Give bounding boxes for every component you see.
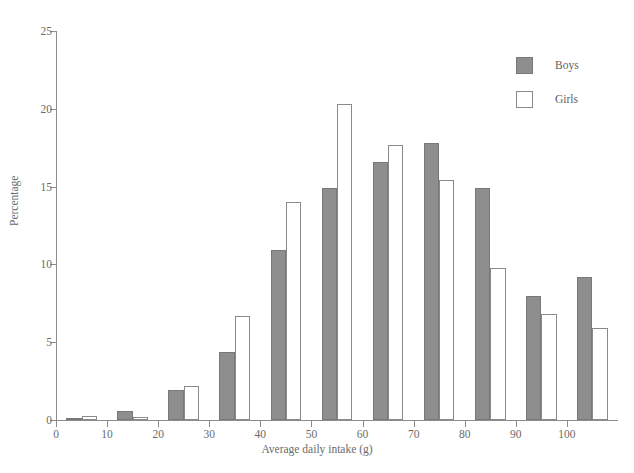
x-tick-mark [414, 421, 415, 427]
bar-boys-55 [322, 188, 337, 420]
x-tick-mark [363, 421, 364, 427]
bar-girls-35 [235, 316, 250, 420]
y-tick-label: 25 [41, 25, 53, 37]
x-tick-label: 10 [101, 428, 113, 440]
x-tick-label: 60 [357, 428, 369, 440]
bar-boys-15 [117, 411, 132, 420]
y-tick-label: 20 [41, 103, 53, 115]
bar-girls-75 [439, 180, 454, 420]
legend-item-boys: Boys [516, 48, 626, 82]
bar-boys-35 [219, 352, 234, 420]
y-tick-label: 10 [41, 258, 53, 270]
y-tick-label: 15 [41, 181, 53, 193]
x-tick-mark [516, 421, 517, 427]
legend-swatch-girls [516, 91, 533, 108]
bar-boys-95 [526, 296, 541, 420]
bar-boys-75 [424, 143, 439, 420]
x-tick-label: 40 [255, 428, 267, 440]
x-tick-label: 0 [53, 428, 59, 440]
x-tick-mark [209, 421, 210, 427]
chart-legend: BoysGirls [516, 48, 626, 116]
legend-label-boys: Boys [555, 59, 579, 71]
bar-girls-95 [541, 314, 556, 420]
bar-girls-5 [82, 416, 97, 420]
x-axis-line [56, 420, 618, 421]
chart-figure: Percentage Average daily intake (g) 0510… [0, 0, 634, 473]
y-tick-label: 5 [46, 336, 52, 348]
x-tick-mark [260, 421, 261, 427]
legend-item-girls: Girls [516, 82, 626, 116]
y-axis-title: Percentage [8, 176, 20, 226]
bar-boys-65 [373, 162, 388, 420]
legend-label-girls: Girls [555, 93, 578, 105]
bar-boys-45 [271, 250, 286, 420]
bar-boys-5 [66, 418, 81, 420]
x-tick-label: 20 [152, 428, 164, 440]
x-tick-mark [567, 421, 568, 427]
bar-boys-105 [577, 277, 592, 420]
bar-boys-25 [168, 390, 183, 420]
x-tick-label: 70 [408, 428, 420, 440]
x-tick-label: 50 [306, 428, 318, 440]
cropped-title-fragment [0, 0, 634, 5]
bar-girls-65 [388, 145, 403, 420]
bar-girls-55 [337, 104, 352, 420]
bar-girls-45 [286, 202, 301, 420]
bar-girls-15 [133, 417, 148, 420]
legend-swatch-boys [516, 57, 533, 74]
x-tick-mark [107, 421, 108, 427]
x-tick-mark [465, 421, 466, 427]
bar-girls-105 [592, 328, 607, 420]
x-tick-label: 90 [510, 428, 522, 440]
x-axis-title: Average daily intake (g) [0, 443, 634, 455]
bar-girls-85 [490, 268, 505, 420]
x-tick-label: 30 [204, 428, 216, 440]
y-tick-label: 0 [46, 414, 52, 426]
x-tick-mark [311, 421, 312, 427]
x-tick-label: 80 [459, 428, 471, 440]
x-tick-mark [56, 421, 57, 427]
x-tick-label: 100 [558, 428, 575, 440]
x-tick-mark [158, 421, 159, 427]
bar-boys-85 [475, 188, 490, 420]
bar-girls-25 [184, 386, 199, 420]
